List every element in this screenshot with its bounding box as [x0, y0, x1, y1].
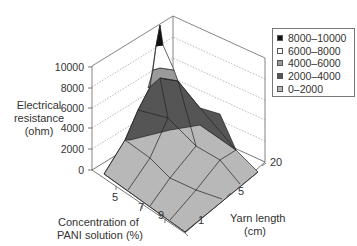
legend-item: 2000–4000 [277, 70, 350, 83]
x-tick-7: 7 [138, 201, 144, 214]
y-tick-5: 5 [238, 185, 244, 198]
z-axis-label-line2: resistance [13, 112, 65, 125]
legend-swatch-icon [277, 48, 283, 54]
z-tick-2000: 2000 [44, 143, 84, 155]
x-tick-9: 9 [158, 209, 164, 222]
legend-item: 4000–6000 [277, 57, 350, 70]
z-tick-0: 0 [44, 164, 84, 176]
x-axis-label-line2: PANI solution (%) [57, 229, 143, 242]
legend-label: 0–2000 [288, 83, 323, 95]
z-tick-8000: 8000 [44, 82, 84, 94]
legend-swatch-icon [277, 35, 283, 41]
z-tick-10000: 10000 [44, 61, 84, 73]
y-tick-20: 20 [270, 156, 282, 169]
z-axis-label-line1: Electrical [15, 99, 63, 112]
legend-label: 4000–6000 [288, 57, 341, 69]
legend-label: 8000–10000 [288, 32, 346, 44]
surface-band-6000-8000 [153, 45, 174, 70]
legend-item: 0–2000 [277, 82, 350, 95]
y-tick-1: 1 [198, 214, 204, 227]
z-axis-ticks [88, 67, 92, 170]
legend-item: 6000–8000 [277, 45, 350, 58]
x-tick-5: 5 [112, 191, 118, 204]
legend-label: 2000–4000 [288, 70, 341, 82]
legend-label: 6000–8000 [288, 45, 341, 57]
legend-swatch-icon [277, 60, 283, 66]
z-axis-label-line3: (ohm) [15, 125, 63, 138]
legend-swatch-icon [277, 86, 283, 92]
y-axis-label-line1: Yarn length [230, 212, 285, 225]
y-axis-label-line2: (cm) [244, 225, 266, 238]
legend: 8000–10000 6000–8000 4000–6000 2000–4000… [272, 28, 355, 97]
legend-item: 8000–10000 [277, 32, 350, 45]
legend-swatch-icon [277, 73, 283, 79]
x-axis-label-line1: Concentration of [58, 216, 139, 229]
